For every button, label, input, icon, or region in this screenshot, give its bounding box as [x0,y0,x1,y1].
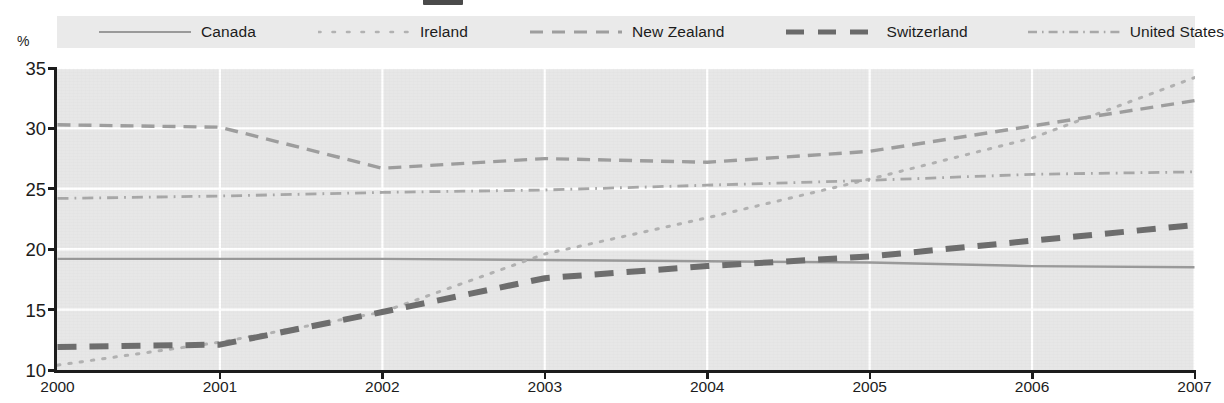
legend-swatch-new-zealand-icon [530,25,622,39]
x-axis-tick-label: 2004 [690,378,724,396]
legend-label-ireland: Ireland [420,23,468,41]
x-axis-tick-mark [1031,370,1034,379]
y-axis-tick-mark [48,127,57,130]
x-axis-tick-label: 2007 [1177,378,1211,396]
title-fragment [423,0,463,5]
y-axis-tick-mark [48,187,57,190]
y-axis-tick-mark [48,67,57,70]
legend-item-canada[interactable]: Canada [99,23,256,41]
x-axis-tick-label: 2002 [365,378,399,396]
y-axis-tick-label: 30 [8,118,46,140]
legend-swatch-united-states-icon [1028,25,1120,39]
legend-swatch-ireland-icon [318,25,410,39]
x-axis-tick-mark [219,370,222,379]
x-axis-tick-label: 2003 [528,378,562,396]
x-axis-tick-mark [1194,370,1197,379]
y-axis-tick-label: 20 [8,239,46,261]
legend-item-ireland[interactable]: Ireland [318,23,468,41]
legend-label-united-states: United States [1130,23,1224,41]
legend-item-new-zealand[interactable]: New Zealand [530,23,724,41]
x-axis-tick-label: 2005 [852,378,886,396]
y-axis-tick-mark [48,369,57,372]
legend-item-switzerland[interactable]: Switzerland [784,23,967,41]
series-line-canada [58,259,1195,267]
x-axis-tick-mark [544,370,547,379]
x-axis-tick-label: 2001 [203,378,237,396]
chart-canvas [57,68,1195,370]
y-axis-tick-mark [48,248,57,251]
series-line-switzerland [58,225,1195,347]
series-line-new-zealand [58,101,1195,169]
x-axis-tick-mark [706,370,709,379]
legend-swatch-canada-icon [99,25,191,39]
y-axis-line [54,68,57,373]
chart-legend: Canada Ireland New Zealand Switzerland U… [57,16,1195,48]
x-axis-tick-label: 2000 [40,378,74,396]
y-axis-tick-label: 15 [8,300,46,322]
x-axis-tick-mark [381,370,384,379]
legend-label-new-zealand: New Zealand [632,23,724,41]
series-line-united-states [58,172,1195,199]
legend-label-switzerland: Switzerland [886,23,967,41]
series-line-ireland [58,78,1195,366]
legend-label-canada: Canada [201,23,256,41]
y-axis-tick-mark [48,308,57,311]
x-axis-line [54,370,1195,373]
legend-swatch-switzerland-icon [784,25,876,39]
legend-item-united-states[interactable]: United States [1028,23,1224,41]
y-axis-tick-label: 35 [8,58,46,80]
y-axis-tick-label: 25 [8,179,46,201]
plot-area [57,68,1195,370]
x-axis-tick-label: 2006 [1015,378,1049,396]
y-axis: 101520253035 [0,0,46,403]
x-axis-tick-mark [869,370,872,379]
